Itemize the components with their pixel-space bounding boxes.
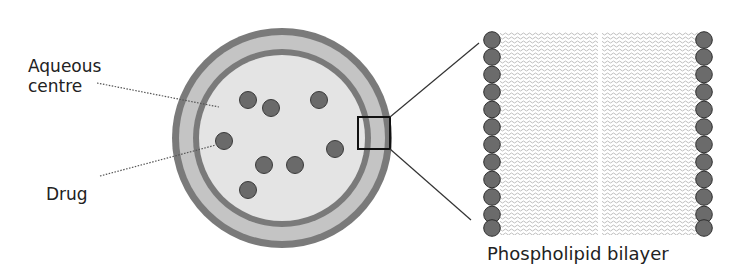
drug-molecule (287, 157, 304, 174)
drug-molecule (256, 157, 273, 174)
drug-molecule (327, 141, 344, 158)
drug-molecule (311, 92, 328, 109)
zoom-line-top (390, 43, 479, 117)
lipid-tails-left (500, 32, 598, 235)
drug-molecule (240, 92, 257, 109)
drug-molecule (216, 133, 233, 150)
phospholipid-heads-left (484, 32, 501, 237)
phospholipid-bilayer-detail (484, 32, 713, 237)
phospholipid-heads-right (696, 32, 713, 237)
lipid-tails-right (602, 32, 698, 235)
drug-molecule (240, 182, 257, 199)
zoom-line-bottom (390, 149, 471, 220)
drug-molecule (263, 100, 280, 117)
liposome-diagram (0, 0, 739, 276)
